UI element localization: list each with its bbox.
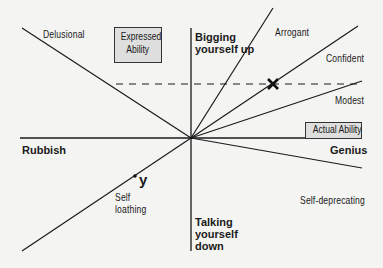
talking-line2: yourself (195, 228, 238, 240)
rubbish-label: Rubbish (22, 144, 66, 156)
arrogant-label: Arrogant (275, 26, 309, 38)
modest-label: Modest (335, 94, 364, 106)
confident-label: Confident (326, 52, 364, 64)
ability-diagram: Delusional Arrogant Confident Modest Sel… (0, 0, 383, 268)
expressed-ability-line2: Ability (127, 43, 150, 56)
y-marker-dot (133, 174, 137, 178)
talking-line1: Talking (195, 216, 238, 228)
expressed-ability-line1: Expressed (121, 30, 162, 43)
actual-ability-box: Actual Ability (305, 122, 362, 139)
self-loathing-line1: Self (115, 191, 146, 203)
expressed-ability-box: Expressed Ability (114, 27, 162, 63)
bigging-yourself-up-label: Bigging yourself up (195, 31, 254, 55)
bigging-line2: yourself up (195, 43, 254, 55)
arrogant-line (191, 8, 273, 138)
bigging-line1: Bigging (195, 31, 254, 43)
self-loathing-line2: loathing (115, 203, 146, 215)
genius-label: Genius (330, 144, 367, 156)
delusional-label: Delusional (43, 28, 85, 40)
talking-yourself-down-label: Talking yourself down (195, 216, 238, 252)
self-deprecating-label: Self-deprecating (300, 194, 365, 206)
y-marker-label: y (139, 171, 147, 188)
talking-line3: down (195, 240, 238, 252)
self-loathing-label: Self loathing (115, 191, 146, 215)
delusional-line (22, 28, 191, 138)
actual-ability-text: Actual Ability (313, 123, 362, 136)
